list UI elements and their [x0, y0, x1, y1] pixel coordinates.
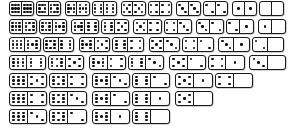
pip — [234, 61, 237, 64]
pip-empty — [91, 29, 94, 32]
pip-empty — [229, 43, 232, 46]
domino-tile-8-6[interactable] — [43, 37, 75, 52]
domino-tile-9-3[interactable] — [9, 109, 47, 124]
domino-tile-2-0[interactable] — [252, 37, 284, 52]
domino-tile-9-7[interactable] — [9, 37, 41, 52]
domino-tile-1-1[interactable] — [232, 1, 257, 16]
domino-tile-4-1[interactable] — [208, 55, 245, 70]
domino-tile-7-4[interactable] — [89, 55, 126, 70]
domino-tile-9-8[interactable] — [9, 19, 37, 34]
pip-grid-6 — [94, 3, 103, 14]
domino-tile-6-1[interactable] — [132, 91, 170, 106]
pip-empty — [281, 25, 284, 28]
pip — [53, 40, 56, 43]
domino-half-right — [272, 20, 285, 33]
domino-tile-3-3[interactable] — [176, 1, 201, 16]
domino-half-left — [183, 38, 198, 51]
pip-empty — [202, 101, 205, 104]
domino-tile-9-5[interactable] — [9, 73, 47, 88]
domino-tile-6-5[interactable] — [101, 19, 129, 34]
pip-empty — [242, 79, 245, 82]
domino-tile-8-5[interactable] — [48, 55, 85, 70]
pip-grid-2 — [199, 39, 212, 50]
domino-tile-7-5[interactable] — [79, 37, 111, 52]
pip-empty — [179, 29, 182, 32]
pip-grid-0 — [273, 3, 282, 14]
pip-empty — [278, 43, 281, 46]
domino-tile-4-0[interactable] — [215, 73, 253, 88]
pip — [32, 22, 35, 25]
domino-tile-8-8[interactable] — [36, 1, 61, 16]
pip-empty — [41, 97, 44, 100]
pip-empty — [186, 22, 189, 25]
pip-empty — [234, 58, 237, 61]
domino-tile-9-9[interactable] — [9, 1, 34, 16]
domino-tile-7-1[interactable] — [92, 109, 130, 124]
pip-empty — [100, 101, 103, 104]
pip — [79, 7, 82, 10]
domino-tile-5-5[interactable] — [121, 1, 146, 16]
domino-tile-8-4[interactable] — [49, 73, 87, 88]
pip — [155, 11, 158, 14]
domino-half-left — [10, 2, 22, 15]
domino-tile-7-6[interactable] — [71, 19, 99, 34]
pip — [11, 29, 14, 32]
domino-half-right — [164, 38, 179, 51]
domino-tile-5-0[interactable] — [175, 91, 213, 106]
domino-tile-5-3[interactable] — [149, 37, 181, 52]
pip-empty — [156, 25, 159, 28]
pip — [159, 65, 162, 68]
pip-empty — [120, 61, 123, 64]
pip — [145, 115, 148, 118]
pip-grid-9 — [11, 3, 20, 14]
domino-tile-6-2[interactable] — [132, 73, 170, 88]
pip — [219, 29, 222, 32]
domino-tile-8-3[interactable] — [49, 91, 87, 106]
pip-empty — [229, 40, 232, 43]
pip — [95, 76, 98, 79]
domino-tile-7-3[interactable] — [92, 73, 130, 88]
domino-tile-5-2[interactable] — [169, 55, 206, 70]
pip-empty — [81, 97, 84, 100]
pip — [228, 76, 231, 79]
domino-tile-9-4[interactable] — [9, 91, 47, 106]
domino-tile-9-6[interactable] — [9, 55, 46, 70]
domino-tile-6-6[interactable] — [92, 1, 117, 16]
domino-tile-6-3[interactable] — [128, 55, 165, 70]
pip-empty — [270, 58, 273, 61]
pip — [115, 47, 118, 50]
pip-empty — [200, 58, 203, 61]
domino-tile-8-7[interactable] — [39, 19, 67, 34]
pip-empty — [279, 11, 282, 14]
domino-tile-7-2[interactable] — [92, 91, 130, 106]
pip — [12, 58, 15, 61]
domino-tile-4-4[interactable] — [148, 1, 173, 16]
domino-tile-6-0[interactable] — [132, 109, 170, 124]
pip — [74, 29, 77, 32]
domino-tile-3-1[interactable] — [218, 37, 250, 52]
domino-tile-4-2[interactable] — [182, 37, 214, 52]
pip-empty — [281, 22, 284, 25]
domino-half-right — [22, 2, 33, 15]
pip-empty — [211, 4, 214, 7]
domino-tile-6-4[interactable] — [112, 37, 144, 52]
domino-tile-2-2[interactable] — [203, 1, 228, 16]
domino-tile-8-2[interactable] — [49, 109, 87, 124]
domino-tile-3-0[interactable] — [249, 55, 286, 70]
pip — [148, 58, 151, 61]
pip-empty — [221, 43, 224, 46]
domino-tile-1-0[interactable] — [258, 19, 286, 34]
pip-empty — [82, 11, 85, 14]
domino-tile-0-0[interactable] — [259, 1, 284, 16]
domino-tile-2-1[interactable] — [226, 19, 254, 34]
domino-tile-4-3[interactable] — [164, 19, 192, 34]
domino-tile-5-4[interactable] — [133, 19, 161, 34]
pip — [89, 43, 92, 46]
pip-empty — [130, 43, 133, 46]
domino-half-right — [66, 56, 83, 69]
domino-tile-7-7[interactable] — [65, 1, 90, 16]
pip — [45, 29, 48, 32]
domino-tile-3-2[interactable] — [196, 19, 224, 34]
pip-empty — [134, 47, 137, 50]
domino-tile-5-1[interactable] — [175, 73, 213, 88]
